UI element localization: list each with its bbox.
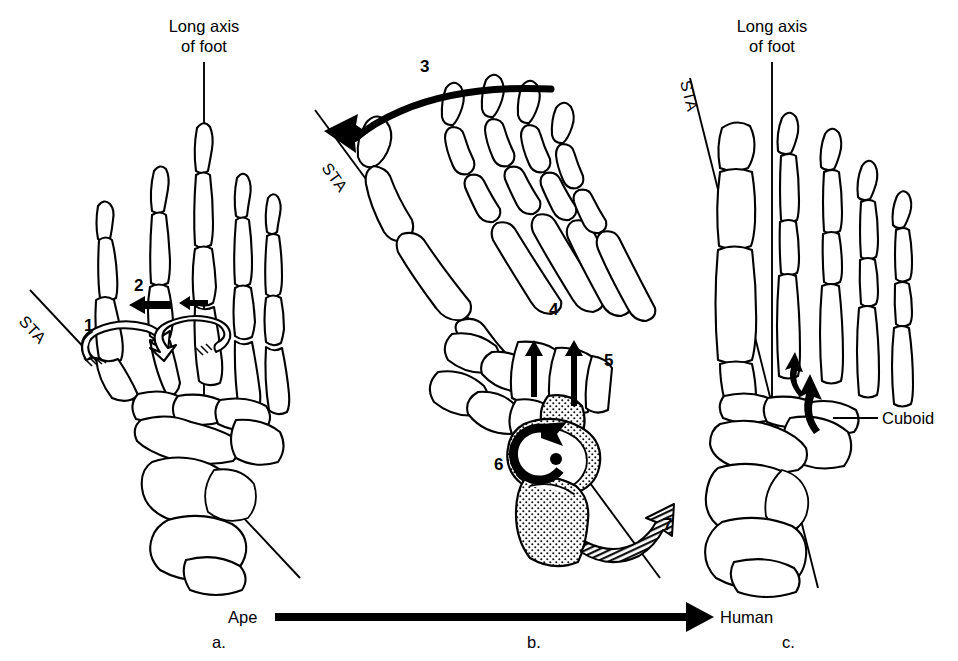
long-axis-label-a-line1: Long axis: [169, 17, 240, 35]
figure-canvas: 1 2 STA Long axis of foot: [0, 0, 958, 661]
annotation-number-1: 1: [84, 316, 93, 335]
annotation-number-4: 4: [549, 300, 559, 319]
long-axis-label-c-line1: Long axis: [737, 17, 808, 35]
legend-human-label: Human: [720, 608, 773, 626]
annotation-number-5: 5: [604, 351, 613, 370]
long-axis-label-c-line2: of foot: [749, 37, 795, 55]
annotation-number-2: 2: [134, 276, 143, 295]
annotation-number-7: 7: [663, 515, 672, 534]
annotation-number-3: 3: [420, 57, 429, 76]
cuboid-label: Cuboid: [882, 409, 934, 427]
hallux-c: [716, 122, 757, 401]
panel-label-c: c.: [782, 633, 795, 651]
legend-ape-label: Ape: [228, 608, 257, 626]
panel-label-a: a.: [212, 633, 226, 651]
panel-label-b: b.: [527, 633, 541, 651]
long-axis-label-a-line2: of foot: [181, 37, 227, 55]
annotation-number-6: 6: [494, 455, 503, 474]
